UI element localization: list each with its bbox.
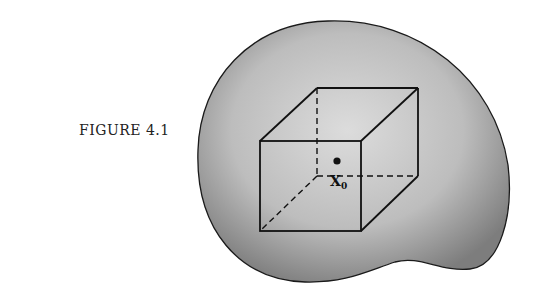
figure-diagram: X0 — [0, 0, 537, 296]
point-x0 — [333, 157, 340, 164]
region-blob — [198, 21, 510, 282]
